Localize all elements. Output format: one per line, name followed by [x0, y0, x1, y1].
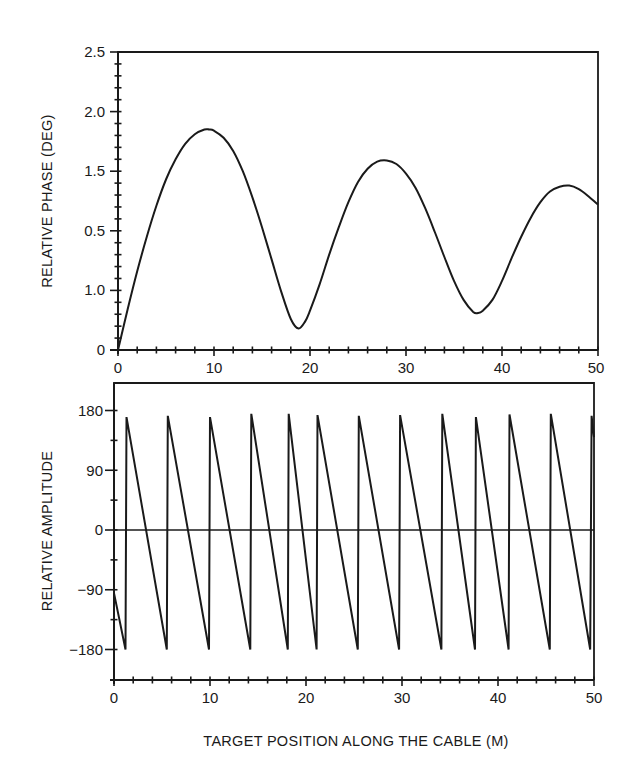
phase-y-tick-label: 0 [97, 341, 105, 358]
x-axis-title: TARGET POSITION ALONG THE CABLE (M) [203, 733, 508, 749]
phase-plot-frame [110, 52, 598, 354]
amplitude-x-tick-label: 0 [110, 689, 118, 706]
phase-plot: 2.5 2.0 1.5 0.5 1.0 0 0 10 20 30 40 50 R… [39, 43, 604, 376]
phase-x-tick-label: 50 [588, 359, 605, 376]
phase-x-tick-label: 30 [398, 359, 415, 376]
amplitude-x-tick-label: 20 [298, 689, 315, 706]
phase-y-tick-label: 2.5 [84, 43, 105, 60]
phase-x-tick-label: 20 [302, 359, 319, 376]
amplitude-plot-frame [110, 383, 594, 684]
amplitude-y-tick-labels: 180 90 0 −90 −180 [69, 402, 103, 658]
amplitude-x-tick-label: 30 [394, 689, 411, 706]
phase-y-tick-label: 1.0 [84, 281, 105, 298]
phase-x-tick-label: 0 [114, 359, 122, 376]
amplitude-y-tick-label: 0 [95, 521, 103, 538]
amplitude-y-tick-label: −90 [78, 581, 103, 598]
amplitude-plot: 180 90 0 −90 −180 0 10 20 30 40 50 RELAT… [39, 383, 602, 749]
amplitude-y-tick-label: 180 [78, 402, 103, 419]
phase-y-tick-label: 0.5 [84, 222, 105, 239]
phase-x-tick-label: 40 [494, 359, 511, 376]
amplitude-plot-ticks [105, 411, 594, 687]
phase-x-tick-labels: 0 10 20 30 40 50 [114, 359, 605, 376]
amplitude-y-axis-title: RELATIVE AMPLITUDE [39, 451, 55, 612]
amplitude-x-tick-label: 50 [586, 689, 603, 706]
amplitude-x-tick-label: 40 [490, 689, 507, 706]
phase-y-axis-title: RELATIVE PHASE (DEG) [39, 114, 55, 287]
phase-plot-ticks [110, 52, 598, 356]
phase-y-tick-labels: 2.5 2.0 1.5 0.5 1.0 0 [84, 43, 105, 358]
amplitude-sawtooth-curve [114, 414, 594, 650]
phase-y-tick-label: 2.0 [84, 103, 105, 120]
amplitude-y-tick-label: −180 [69, 641, 103, 658]
amplitude-x-tick-labels: 0 10 20 30 40 50 [110, 689, 603, 706]
phase-curve [118, 129, 598, 350]
figure: 2.5 2.0 1.5 0.5 1.0 0 0 10 20 30 40 50 R… [0, 0, 637, 783]
phase-x-tick-label: 10 [206, 359, 223, 376]
amplitude-x-tick-label: 10 [202, 689, 219, 706]
phase-y-tick-label: 1.5 [84, 162, 105, 179]
amplitude-y-tick-label: 90 [86, 462, 103, 479]
